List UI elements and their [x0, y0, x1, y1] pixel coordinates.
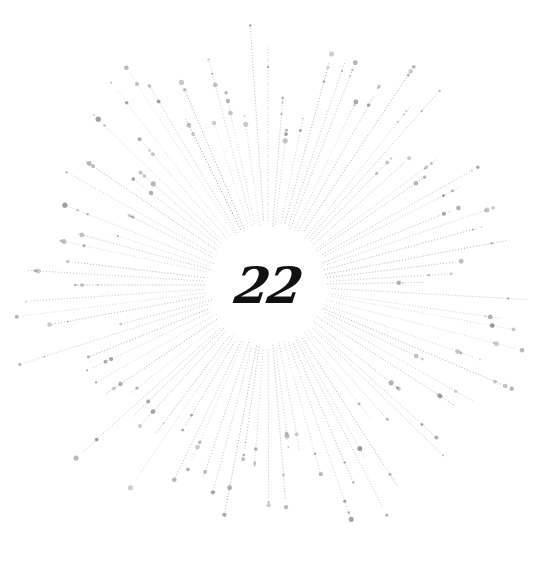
sunburst-ray — [304, 332, 370, 418]
sunburst-dot — [211, 73, 213, 75]
sunburst-dot — [74, 456, 79, 461]
sunburst-dot — [224, 91, 227, 94]
sunburst-ray — [214, 122, 248, 224]
sunburst-dot — [18, 363, 21, 366]
sunburst-ray — [129, 72, 236, 235]
sunburst-dot — [503, 384, 507, 388]
sunburst-dot — [118, 382, 122, 386]
sunburst-ray — [288, 342, 351, 520]
sunburst-ray — [117, 90, 230, 236]
sunburst-dot — [397, 281, 402, 286]
sunburst-dot — [421, 423, 423, 425]
sunburst-dot — [62, 203, 67, 208]
sunburst-dot — [421, 358, 424, 361]
sunburst-ray — [174, 341, 241, 480]
sunburst-dot — [484, 315, 486, 317]
sunburst-ray — [312, 328, 440, 452]
sunburst-ray — [289, 62, 345, 225]
sunburst-dot — [87, 356, 90, 359]
sunburst-dot — [455, 349, 460, 354]
sunburst-dot — [254, 447, 258, 451]
sunburst-ray — [305, 104, 412, 238]
sunburst-ray — [318, 178, 424, 251]
sunburst-dot — [283, 138, 288, 143]
sunburst-dot — [138, 170, 142, 174]
sunburst-dot — [149, 191, 153, 195]
sunburst-dot — [402, 282, 404, 284]
sunburst-dot — [245, 441, 247, 443]
sunburst-dot — [343, 500, 346, 503]
sunburst-dot — [117, 235, 119, 237]
sunburst-dot — [390, 157, 392, 159]
sunburst-dot — [388, 473, 391, 476]
sunburst-dot — [280, 113, 282, 115]
sunburst-ray — [86, 161, 217, 250]
sunburst-ray — [327, 262, 453, 278]
sunburst-dot — [267, 66, 269, 68]
sunburst-dot — [112, 386, 116, 390]
sunburst-ray — [82, 329, 220, 453]
sunburst-dot — [109, 357, 113, 361]
sunburst-dot — [295, 432, 299, 436]
sunburst-dot — [96, 438, 98, 440]
sunburst-dot — [131, 216, 133, 218]
sunburst-ray — [325, 305, 474, 357]
sunburst-dot — [195, 445, 200, 450]
sunburst-dot — [329, 51, 334, 56]
sunburst-ray — [324, 229, 476, 270]
sunburst-dot — [408, 69, 413, 74]
sunburst-dot — [151, 181, 156, 186]
sunburst-dot — [357, 402, 360, 405]
sunburst-dot — [66, 260, 69, 263]
sunburst-ray — [66, 242, 206, 272]
sunburst-dot — [507, 297, 509, 299]
sunburst-ray — [296, 340, 382, 507]
sunburst-dot — [341, 70, 343, 72]
sunburst-dot — [353, 60, 358, 65]
sunburst-dot — [86, 369, 88, 371]
sunburst-dot — [385, 514, 388, 517]
sunburst-dot — [403, 113, 405, 115]
sunburst-dot — [253, 461, 256, 464]
sunburst-dot — [96, 117, 101, 122]
sunburst-dot — [181, 429, 184, 432]
sunburst-ray — [325, 313, 421, 359]
sunburst-dot — [148, 149, 150, 151]
sunburst-ray — [325, 241, 506, 275]
sunburst-dot — [128, 214, 131, 217]
sunburst-ray — [327, 282, 424, 284]
sunburst-ray — [323, 169, 475, 254]
sunburst-dot — [198, 440, 201, 443]
sunburst-ray — [26, 270, 202, 281]
sunburst-dot — [282, 97, 284, 99]
sunburst-dot — [437, 393, 441, 397]
sunburst-dot — [95, 381, 97, 383]
sunburst-ray — [315, 328, 437, 438]
sunburst-dot — [471, 170, 473, 172]
sunburst-dot — [450, 272, 453, 275]
sunburst-dot — [67, 320, 69, 322]
sunburst-dot — [93, 114, 95, 116]
sunburst-dot — [172, 477, 177, 482]
sunburst-dot — [423, 176, 425, 178]
sunburst-ray — [96, 117, 222, 240]
sunburst-dot — [491, 206, 494, 209]
sunburst-ray — [294, 102, 356, 231]
sunburst-dot — [76, 209, 79, 212]
sunburst-ray — [327, 210, 487, 265]
sunburst-dot — [476, 165, 480, 169]
sunburst-ray — [133, 179, 220, 247]
sunburst-ray — [332, 294, 500, 318]
sunburst-dot — [510, 387, 514, 391]
sunburst-dot — [405, 110, 407, 112]
sunburst-dot — [80, 283, 84, 287]
sunburst-ray — [149, 85, 237, 233]
sunburst-dot — [407, 74, 410, 77]
sunburst-dot — [135, 387, 138, 390]
sunburst-dot — [349, 517, 354, 522]
sunburst-ray — [309, 94, 437, 238]
sunburst-dot — [143, 174, 146, 177]
sunburst-ray — [136, 334, 235, 479]
sunburst-dot — [491, 242, 493, 244]
sunburst-dot — [472, 229, 474, 231]
